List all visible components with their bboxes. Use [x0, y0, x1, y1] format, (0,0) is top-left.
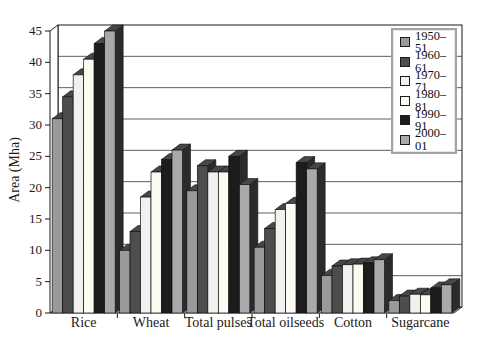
y-tick-label: 40 — [29, 54, 42, 69]
bar-total-oilseeds-1990–91 — [296, 163, 307, 313]
y-tick-label: 0 — [36, 305, 43, 320]
x-category-label: Sugarcane — [391, 315, 449, 330]
legend-item: 1960–61 — [400, 56, 455, 68]
legend-swatch-icon — [400, 57, 410, 67]
bar-wheat-2000–01 — [172, 150, 183, 313]
y-tick-label: 45 — [29, 23, 42, 38]
legend-item: 2000–01 — [400, 134, 455, 146]
bar-total-pulses-1990–91 — [229, 156, 240, 313]
y-tick-label: 25 — [29, 148, 42, 163]
y-tick-label: 20 — [29, 180, 42, 195]
bar-rice-1990–91 — [94, 44, 105, 313]
bar-total-oilseeds-1950–51 — [254, 247, 265, 313]
bar-cotton-1960–61 — [332, 266, 343, 313]
bar-total-pulses-1980–81 — [218, 172, 229, 313]
bar-total-oilseeds-1960–61 — [265, 228, 276, 313]
y-tick-label: 30 — [29, 117, 42, 132]
x-category-label: Wheat — [133, 315, 170, 330]
bar-rice-1970–71 — [73, 75, 84, 313]
chart-legend: 1950–511960–611970–711980–811990–912000–… — [391, 28, 457, 154]
bar-total-pulses-1960–61 — [197, 166, 208, 313]
legend-swatch-icon — [400, 135, 410, 145]
legend-item: 1950–51 — [400, 36, 455, 48]
legend-swatch-icon — [400, 37, 410, 47]
bar-cotton-1970–71 — [343, 265, 354, 313]
bar-cotton-1980–81 — [353, 264, 364, 313]
legend-swatch-icon — [400, 96, 410, 106]
bar-rice-1960–61 — [63, 97, 74, 313]
bar-rice-2000–01 — [105, 31, 116, 313]
bar-sugarcane-1970–71 — [410, 294, 421, 313]
bar-wheat-1990–91 — [162, 159, 173, 313]
x-category-label: Total oilseeds — [247, 315, 324, 330]
bar-total-pulses-1950–51 — [187, 191, 198, 313]
x-category-label: Total pulses — [185, 315, 252, 330]
bar-total-oilseeds-1970–71 — [275, 210, 286, 313]
bar-total-pulses-2000–01 — [239, 185, 250, 313]
bar-wheat-1960–61 — [130, 232, 141, 313]
bar-sugarcane-2000–01 — [441, 285, 452, 313]
bar-total-oilseeds-1980–81 — [286, 203, 297, 313]
bar-wheat-1980–81 — [151, 172, 162, 313]
bar-wheat-1950–51 — [120, 250, 131, 313]
bar-wheat-1970–71 — [141, 197, 152, 313]
x-category-label: Cotton — [334, 315, 372, 330]
bar-total-pulses-1970–71 — [208, 172, 219, 313]
legend-item: 1970–71 — [400, 75, 455, 87]
y-axis-title: Area (Mha) — [7, 137, 23, 203]
legend-swatch-icon — [400, 76, 410, 86]
legend-label: 2000–01 — [415, 127, 455, 152]
y-tick-label: 10 — [29, 242, 42, 257]
bar-sugarcane-1960–61 — [399, 296, 410, 313]
bar-cotton-1990–91 — [364, 263, 375, 313]
legend-item: 1990–91 — [400, 114, 455, 126]
bar-sugarcane-1950–51 — [389, 300, 400, 313]
crop-area-3d-bar-chart: 051015202530354045RiceWheatTotal pulsesT… — [0, 0, 481, 349]
legend-item: 1980–81 — [400, 95, 455, 107]
y-tick-label: 35 — [29, 86, 42, 101]
y-tick-label: 5 — [36, 274, 43, 289]
bar-cotton-2000–01 — [374, 260, 385, 313]
bar-sugarcane-1990–91 — [431, 288, 442, 313]
y-tick-label: 15 — [29, 211, 42, 226]
bar-rice-1950–51 — [52, 119, 63, 313]
bar-sugarcane-1980–81 — [420, 295, 431, 313]
bar-rice-1980–81 — [84, 59, 95, 313]
bar-total-oilseeds-2000–01 — [307, 169, 318, 313]
x-category-label: Rice — [71, 315, 97, 330]
bar-cotton-1950–51 — [322, 275, 333, 313]
legend-swatch-icon — [400, 115, 410, 125]
